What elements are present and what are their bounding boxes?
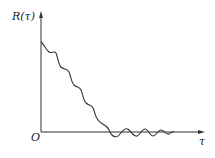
autocorrelation-curve: [41, 42, 174, 137]
origin-label: O: [31, 131, 40, 144]
y-axis-label: R(τ): [11, 10, 35, 23]
x-axis-label: τ: [199, 135, 206, 148]
x-axis-arrow-icon: [198, 130, 205, 134]
y-axis-arrow-icon: [39, 11, 43, 18]
autocorrelation-chart: R(τ) O τ: [0, 0, 215, 158]
